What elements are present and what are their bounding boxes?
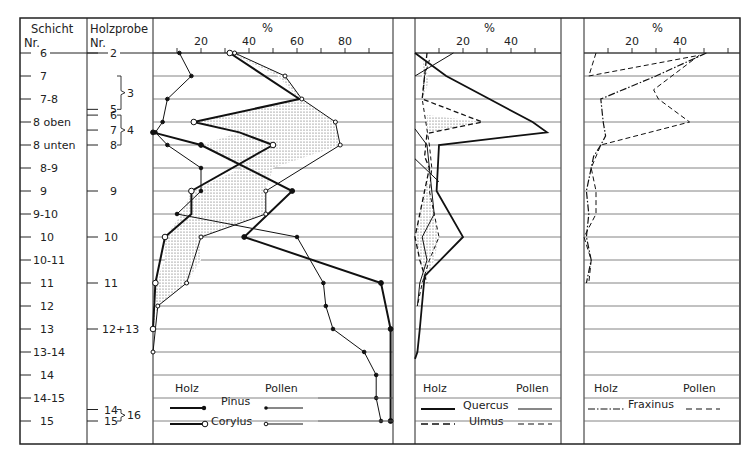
pollen-diagram: Schicht Nr. Holzprobe Nr. % % % 677-88 o…: [0, 0, 744, 468]
pinus-pollen-point: [166, 143, 170, 147]
pinus-holz-point: [388, 327, 393, 332]
schicht-label: 13-14: [33, 346, 65, 359]
header-holzprobe: Holzprobe: [90, 22, 148, 36]
legend-quercus-label: Quercus: [463, 399, 509, 412]
corylus-pollen-point: [199, 235, 203, 239]
legend-ulmus-label: Ulmus: [469, 415, 504, 428]
holzprobe-bracket: [117, 76, 125, 109]
pinus-holz-point: [199, 143, 204, 148]
pinus-pollen-point: [295, 235, 299, 239]
schicht-label: 10: [40, 231, 54, 244]
pinus-holz-point: [151, 130, 156, 135]
pinus-pollen-point: [362, 350, 366, 354]
axis-title-pct-1: %: [262, 21, 273, 35]
holzprobe-label: 9: [110, 185, 117, 198]
corylus-pollen-point: [233, 51, 237, 55]
holzprobe-label: 11: [104, 277, 118, 290]
holzprobe-group-label: 4: [127, 124, 134, 137]
corylus-pollen-point: [338, 143, 342, 147]
legend-corylus-pollen-dot: [264, 422, 268, 426]
header-schicht-nr: Nr.: [24, 36, 40, 50]
pinus-holz-point: [242, 235, 247, 240]
legend-holz-label: Holz: [175, 382, 199, 395]
holzprobe-group-label: 3: [127, 87, 134, 100]
holzprobe-label: 7: [110, 124, 117, 137]
pinus-pollen-point: [178, 51, 182, 55]
pinus-pollen-point: [190, 74, 194, 78]
legend-holz-label: Holz: [423, 382, 447, 395]
x-tick-label: 40: [504, 35, 518, 48]
legend-pinus-label: Pinus: [221, 395, 250, 408]
pinus-pollen-point: [199, 166, 203, 170]
ulmus-band: [427, 115, 482, 133]
pinus-pollen-point: [166, 97, 170, 101]
legend-pollen-label: Pollen: [683, 382, 716, 395]
schicht-label: 11: [40, 277, 54, 290]
holzprobe-label: 15: [104, 415, 118, 428]
schicht-label: 15: [40, 415, 54, 428]
x-tick-label: 20: [625, 35, 639, 48]
pinus-pollen-point: [324, 304, 328, 308]
schicht-label: 10-11: [33, 254, 65, 267]
legend-fraxinus-label: Fraxinus: [628, 398, 674, 411]
legend-pollen-label: Pollen: [265, 382, 298, 395]
axis-title-pct-2: %: [484, 21, 495, 35]
x-tick-label: 40: [242, 35, 256, 48]
x-tick-label: 80: [338, 35, 352, 48]
schicht-label: 13: [40, 323, 54, 336]
header-holzprobe-nr: Nr.: [90, 36, 106, 50]
corylus-pollen-point: [264, 189, 268, 193]
corylus-pollen-point: [283, 74, 287, 78]
outer-frame: [20, 18, 740, 444]
pinus-pollen-point: [161, 120, 165, 124]
corylus-pollen-point: [264, 212, 268, 216]
pinus-pollen-point: [175, 212, 179, 216]
schicht-label: 9-10: [33, 208, 58, 221]
corylus-pollen-point: [156, 304, 160, 308]
pinus-pollen-point: [331, 327, 335, 331]
holzprobe-group-label: 16: [127, 409, 141, 422]
corylus-holz-point: [150, 326, 156, 332]
holzprobe-bracket: [117, 115, 125, 145]
schicht-label: 8-9: [40, 162, 58, 175]
corylus-holz-point: [227, 50, 233, 56]
schicht-label: 7: [40, 70, 47, 83]
corylus-holz-point: [189, 188, 195, 194]
holzprobe-label: 6: [110, 109, 117, 122]
pinus-pollen-point: [199, 189, 203, 193]
schicht-label: 14-15: [33, 392, 65, 405]
x-tick-label: 20: [456, 35, 470, 48]
schicht-label: 12: [40, 300, 54, 313]
schicht-label: 14: [40, 369, 54, 382]
schicht-label: 7-8: [40, 93, 58, 106]
holzprobe-label: 12+13: [102, 323, 139, 336]
schicht-label: 8 unten: [33, 139, 76, 152]
pinus-holz-point: [379, 281, 384, 286]
legend-pollen-label: Pollen: [516, 382, 549, 395]
corylus-holz-point: [162, 234, 168, 240]
corylus-band: [153, 53, 340, 352]
legend-corylus-holz-dot: [202, 421, 208, 427]
x-tick-label: 40: [673, 35, 687, 48]
legend-pinus-holz-dot: [202, 406, 206, 410]
corylus-pollen-point: [151, 350, 155, 354]
corylus-holz-point: [153, 280, 159, 286]
x-tick-label: 20: [194, 35, 208, 48]
holzprobe-label: 10: [104, 231, 118, 244]
pinus-pollen-point: [322, 281, 326, 285]
schicht-label: 9: [40, 185, 47, 198]
axis-title-pct-3: %: [652, 21, 663, 35]
holzprobe-label: 8: [110, 139, 117, 152]
x-tick-label: 60: [290, 35, 304, 48]
corylus-pollen-point: [185, 281, 189, 285]
legend-holz-label: Holz: [594, 382, 618, 395]
corylus-holz-point: [270, 142, 276, 148]
pinus-pollen-point: [374, 373, 378, 377]
pinus-holz-point: [290, 189, 295, 194]
header-schicht: Schicht: [31, 22, 74, 36]
holzprobe-label: 2: [110, 47, 117, 60]
corylus-pollen-point: [300, 97, 304, 101]
corylus-pollen-point: [333, 120, 337, 124]
corylus-holz-point: [191, 119, 197, 125]
legend-corylus-label: Corylus: [211, 415, 252, 428]
